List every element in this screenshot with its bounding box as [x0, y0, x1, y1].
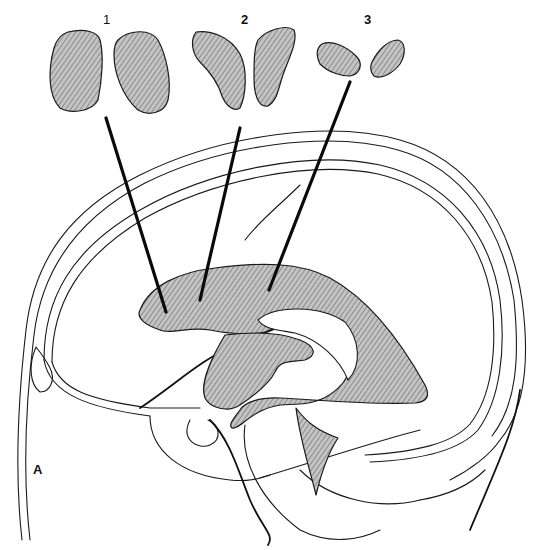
section-pair-2 — [193, 28, 296, 110]
ventricle-diagram — [0, 0, 533, 550]
section-label-1: 1 — [103, 12, 110, 27]
section-label-3: 3 — [364, 12, 371, 27]
section-pair-3 — [317, 40, 404, 77]
section-pair-1 — [50, 30, 169, 113]
brain-structures — [140, 185, 485, 545]
lateral-ventricle — [139, 264, 427, 495]
panel-label: A — [33, 462, 42, 477]
section-label-2: 2 — [241, 12, 248, 27]
